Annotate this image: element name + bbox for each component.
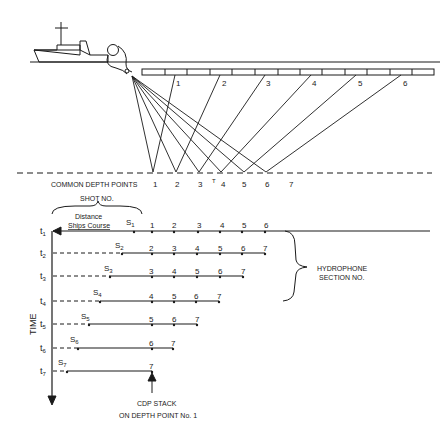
distance-label: Distance	[75, 213, 102, 220]
svg-text:t5: t5	[40, 319, 47, 330]
svg-text:2: 2	[172, 221, 177, 230]
depth-point-4: 4	[221, 180, 226, 189]
svg-text:4: 4	[220, 221, 225, 230]
svg-text:S5: S5	[81, 312, 90, 322]
svg-text:S6: S6	[70, 335, 79, 345]
common-depth-points-label: COMMON DEPTH POINTS	[51, 181, 138, 188]
svg-text:t3: t3	[40, 271, 47, 282]
shot-no-label: SHOT NO.	[80, 195, 114, 202]
svg-text:S2: S2	[115, 241, 124, 251]
svg-text:6: 6	[264, 221, 269, 230]
streamer-section-1: 1	[176, 79, 181, 88]
svg-text:6: 6	[218, 267, 223, 276]
cable-reel-icon	[107, 45, 132, 75]
shot-and-section-markers	[66, 231, 266, 373]
ships-course-label: Ships Course	[68, 222, 110, 230]
hydrophone-label-line1: HYDROPHONE	[317, 265, 368, 272]
svg-text:S4: S4	[93, 288, 102, 298]
time-axis-arrow-icon	[48, 396, 56, 405]
ship-icon	[34, 22, 108, 62]
svg-text:3: 3	[149, 267, 154, 276]
svg-text:t1: t1	[40, 226, 47, 237]
svg-text:7: 7	[217, 292, 222, 301]
cdp-stack-label: CDP STACK	[137, 400, 177, 407]
streamer-section-5: 5	[358, 79, 363, 88]
time-axis-label: TIME	[28, 314, 38, 336]
svg-text:5: 5	[172, 292, 177, 301]
svg-text:6: 6	[172, 315, 177, 324]
hydrophone-streamer	[142, 69, 434, 75]
svg-text:5: 5	[195, 267, 200, 276]
time-labels: t1 t2 t3 t4 t5 t6 t7	[40, 226, 47, 377]
depth-point-1: 1	[153, 180, 158, 189]
svg-text:6: 6	[149, 339, 154, 348]
svg-text:7: 7	[171, 339, 176, 348]
streamer-section-6: 6	[403, 79, 408, 88]
svg-text:4: 4	[172, 267, 177, 276]
svg-text:6: 6	[194, 292, 199, 301]
svg-text:5: 5	[242, 221, 247, 230]
svg-text:t7: t7	[40, 366, 47, 377]
svg-text:S1: S1	[126, 218, 135, 228]
depth-marker-t: T	[212, 178, 216, 184]
svg-text:1: 1	[150, 221, 155, 230]
svg-text:2: 2	[149, 244, 154, 253]
svg-text:3: 3	[197, 221, 202, 230]
svg-text:7: 7	[263, 244, 268, 253]
streamer-section-3: 3	[266, 79, 271, 88]
svg-text:t4: t4	[40, 296, 47, 307]
svg-text:7: 7	[195, 315, 200, 324]
cdp-diagram: 1 2 3 4 5 6 COMMON DEPTH POINTS 1 2 3 T …	[0, 0, 446, 437]
svg-text:S7: S7	[58, 358, 67, 368]
streamer-section-4: 4	[312, 79, 317, 88]
svg-text:5: 5	[149, 315, 154, 324]
svg-text:t2: t2	[40, 248, 47, 259]
depth-point-2: 2	[175, 180, 180, 189]
svg-text:7: 7	[149, 362, 154, 371]
cdp-depth-point-label: ON DEPTH POINT No. 1	[119, 412, 197, 419]
svg-text:6: 6	[241, 244, 246, 253]
depth-point-7: 7	[289, 180, 294, 189]
svg-text:7: 7	[241, 267, 246, 276]
hydrophone-brace	[283, 231, 307, 301]
svg-text:t6: t6	[40, 343, 47, 354]
svg-text:4: 4	[149, 292, 154, 301]
cdp-arrow-icon	[148, 373, 156, 381]
svg-text:S3: S3	[104, 264, 113, 274]
depth-point-6: 6	[265, 180, 270, 189]
streamer-section-2: 2	[222, 79, 227, 88]
svg-text:5: 5	[218, 244, 223, 253]
depth-point-3: 3	[198, 180, 203, 189]
svg-text:3: 3	[172, 244, 177, 253]
svg-text:4: 4	[195, 244, 200, 253]
hydrophone-label-line2: SECTION NO.	[319, 274, 365, 281]
ray-paths	[132, 75, 401, 172]
shot-labels: S1 S2 S3 S4 S5 S6 S7	[58, 218, 135, 368]
depth-point-5: 5	[242, 180, 247, 189]
